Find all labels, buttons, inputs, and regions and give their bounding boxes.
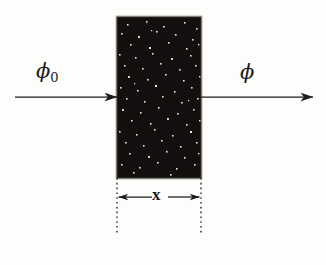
incident-flux-symbol: ϕ bbox=[36, 59, 50, 83]
incident-flux-subscript: 0 bbox=[50, 70, 58, 85]
emergent-flux-label: ϕ bbox=[240, 62, 254, 83]
figure-canvas bbox=[0, 0, 326, 265]
thickness-label: x bbox=[152, 186, 161, 203]
beam-attenuation-figure: ϕ0 ϕ x bbox=[0, 0, 326, 265]
incident-flux-label: ϕ0 bbox=[36, 61, 59, 84]
absorber-slab-group bbox=[116, 16, 203, 180]
